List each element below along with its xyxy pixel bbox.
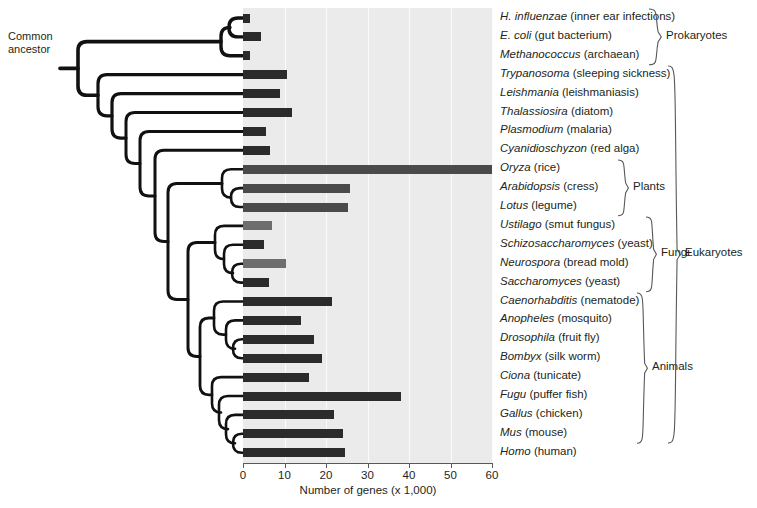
- taxon-label-ustilago: Ustilago (smut fungus): [500, 218, 615, 230]
- bar-e--coli: [243, 32, 261, 41]
- bar-plasmodium: [243, 127, 266, 136]
- taxon-genus: Trypanosoma: [500, 67, 569, 79]
- taxon-label-anopheles: Anopheles (mosquito): [500, 312, 612, 324]
- gridline-50: [451, 8, 452, 463]
- taxon-genus: Leishmania: [500, 86, 559, 98]
- bar-ustilago: [243, 221, 272, 230]
- bar-leishmania: [243, 89, 280, 98]
- taxon-common-name: (nematode): [577, 294, 639, 306]
- taxon-genus: Drosophila: [500, 331, 555, 343]
- taxon-label-mus: Mus (mouse): [500, 426, 567, 438]
- taxon-common-name: (bread mold): [560, 256, 628, 268]
- x-axis-title: Number of genes (x 1,000): [243, 484, 493, 496]
- taxon-common-name: (tunicate): [530, 369, 581, 381]
- tick-label-30: 30: [361, 469, 374, 481]
- bar-thalassiosira: [243, 108, 292, 117]
- taxon-genus: Arabidopsis: [500, 180, 560, 192]
- tick-mark-20: [326, 463, 327, 468]
- group-label-prokaryotes: Prokaryotes: [666, 29, 727, 41]
- taxon-genus: Oryza: [500, 161, 531, 173]
- taxon-common-name: (archaean): [581, 48, 640, 60]
- taxon-common-name: (rice): [531, 161, 560, 173]
- taxon-genus: Homo: [500, 445, 531, 457]
- bar-caenorhabditis: [243, 297, 332, 306]
- taxon-genus: Thalassiosira: [500, 105, 568, 117]
- taxon-common-name: (cress): [560, 180, 598, 192]
- bar-neurospora: [243, 259, 286, 268]
- bar-anopheles: [243, 316, 301, 325]
- bar-schizosaccharomyces: [243, 240, 264, 249]
- taxon-common-name: (mosquito): [554, 312, 612, 324]
- taxon-genus: E. coli: [500, 29, 531, 41]
- bar-trypanosoma: [243, 70, 287, 79]
- taxon-label-thalassiosira: Thalassiosira (diatom): [500, 105, 613, 117]
- tick-mark-40: [409, 463, 410, 468]
- taxon-label-fugu: Fugu (puffer fish): [500, 388, 587, 400]
- taxon-common-name: (silk worm): [542, 350, 601, 362]
- taxon-label-ciona: Ciona (tunicate): [500, 369, 581, 381]
- taxon-genus: Neurospora: [500, 256, 560, 268]
- taxon-genus: Caenorhabditis: [500, 294, 577, 306]
- taxon-label-cyanidioschyzon: Cyanidioschyzon (red alga): [500, 142, 639, 154]
- taxon-genus: Ustilago: [500, 218, 542, 230]
- bar-homo: [243, 448, 345, 457]
- taxon-label-caenorhabditis: Caenorhabditis (nematode): [500, 294, 639, 306]
- taxon-common-name: (chicken): [533, 407, 583, 419]
- taxon-label-saccharomyces: Saccharomyces (yeast): [500, 275, 620, 287]
- common-ancestor-line2: ancestor: [8, 43, 78, 56]
- taxon-genus: Saccharomyces: [500, 275, 582, 287]
- taxon-common-name: (diatom): [568, 105, 613, 117]
- taxon-genus: Anopheles: [500, 312, 554, 324]
- taxon-label-drosophila: Drosophila (fruit fly): [500, 331, 600, 343]
- taxon-label-schizosaccharomyces: Schizosaccharomyces (yeast): [500, 237, 653, 249]
- tick-label-20: 20: [320, 469, 333, 481]
- taxon-common-name: (leishmaniasis): [559, 86, 639, 98]
- taxon-common-name: (smut fungus): [542, 218, 616, 230]
- group-label-plants: Plants: [633, 180, 665, 192]
- gridline-60: [492, 8, 493, 463]
- bar-mus: [243, 429, 343, 438]
- taxon-common-name: (human): [531, 445, 577, 457]
- taxon-genus: Lotus: [500, 199, 528, 211]
- taxon-common-name: (fruit fly): [555, 331, 600, 343]
- bar-drosophila: [243, 335, 314, 344]
- tick-label-40: 40: [403, 469, 416, 481]
- bar-lotus: [243, 203, 348, 212]
- taxon-label-bombyx: Bombyx (silk worm): [500, 350, 600, 362]
- bar-ciona: [243, 373, 309, 382]
- tick-label-0: 0: [240, 469, 246, 481]
- taxon-genus: Fugu: [500, 388, 526, 400]
- taxon-genus: Cyanidioschyzon: [500, 142, 587, 154]
- taxon-genus: Plasmodium: [500, 123, 563, 135]
- taxon-common-name: (mouse): [522, 426, 567, 438]
- bar-saccharomyces: [243, 278, 269, 287]
- taxon-label-neurospora: Neurospora (bread mold): [500, 256, 628, 268]
- group-label-eukaryotes: Eukaryotes: [685, 246, 743, 258]
- taxon-label-trypanosoma: Trypanosoma (sleeping sickness): [500, 67, 670, 79]
- taxon-label-lotus: Lotus (legume): [500, 199, 577, 211]
- taxon-genus: Mus: [500, 426, 522, 438]
- taxon-common-name: (gut bacterium): [531, 29, 612, 41]
- bar-methanococcus: [243, 51, 250, 60]
- taxon-label-methanococcus: Methanococcus (archaean): [500, 48, 639, 60]
- tick-mark-50: [451, 463, 452, 468]
- taxon-genus: Methanococcus: [500, 48, 581, 60]
- tick-mark-60: [492, 463, 493, 468]
- taxon-genus: Schizosaccharomyces: [500, 237, 614, 249]
- tick-mark-30: [368, 463, 369, 468]
- taxon-label-oryza: Oryza (rice): [500, 161, 560, 173]
- taxon-label-gallus: Gallus (chicken): [500, 407, 582, 419]
- common-ancestor-line1: Common: [8, 30, 78, 43]
- taxon-genus: Ciona: [500, 369, 530, 381]
- common-ancestor-label: Common ancestor: [8, 30, 78, 56]
- tick-label-60: 60: [486, 469, 499, 481]
- taxon-label-arabidopsis: Arabidopsis (cress): [500, 180, 598, 192]
- bar-fugu: [243, 392, 401, 401]
- taxon-common-name: (puffer fish): [526, 388, 587, 400]
- bar-h--influenzae: [243, 14, 250, 23]
- taxon-common-name: (legume): [528, 199, 577, 211]
- bar-oryza: [243, 165, 492, 174]
- taxon-common-name: (yeast): [582, 275, 620, 287]
- phylogenetic-tree: [0, 0, 250, 470]
- taxon-common-name: (malaria): [563, 123, 612, 135]
